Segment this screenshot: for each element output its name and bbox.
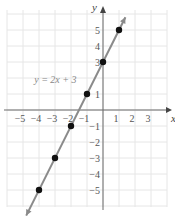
x-tick-label: −5 [15, 113, 26, 124]
axes [4, 6, 172, 210]
y-tick-label: −5 [89, 185, 100, 196]
y-tick-label: −4 [89, 169, 100, 180]
y-tick-label: 5 [95, 25, 100, 36]
equation-label: y = 2x + 3 [33, 74, 76, 85]
x-tick-label: −3 [47, 113, 58, 124]
grid [7, 10, 167, 207]
data-point [84, 91, 90, 97]
y-tick-label: −2 [89, 137, 100, 148]
data-point [116, 27, 122, 33]
data-point [36, 187, 42, 193]
x-tick-label: 2 [130, 113, 135, 124]
x-axis-label: x [170, 112, 175, 124]
x-tick-label: −4 [31, 113, 42, 124]
line-graph: −5−4−3−2−1123−5−4−3−2−11345 y = 2x + 3 x… [0, 0, 175, 218]
data-point [68, 123, 74, 129]
y-tick-label: 4 [95, 41, 100, 52]
y-tick-label: −3 [89, 153, 100, 164]
x-tick-label: 1 [114, 113, 119, 124]
x-tick-label: −1 [79, 113, 90, 124]
data-point [100, 59, 106, 65]
y-axis-label: y [91, 1, 97, 13]
y-tick-label: −1 [89, 121, 100, 132]
x-tick-label: 3 [146, 113, 151, 124]
y-tick-label: 3 [95, 57, 100, 68]
y-tick-label: 1 [95, 89, 100, 100]
data-point [52, 155, 58, 161]
y-axis-arrow-icon [100, 6, 106, 13]
